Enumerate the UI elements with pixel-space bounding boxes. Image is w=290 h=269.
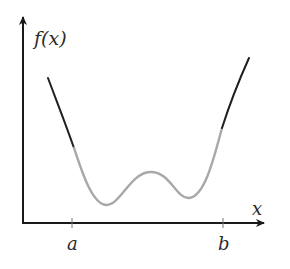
curve-right-segment	[222, 58, 249, 128]
curve-left-segment	[48, 78, 74, 148]
tick-label-a: a	[67, 233, 78, 254]
y-axis-label: f(x)	[32, 27, 67, 49]
x-axis-label: x	[252, 198, 262, 219]
curve-middle-segment	[74, 128, 222, 205]
function-plot: f(x) x a b	[0, 0, 290, 269]
tick-label-b: b	[218, 233, 230, 254]
